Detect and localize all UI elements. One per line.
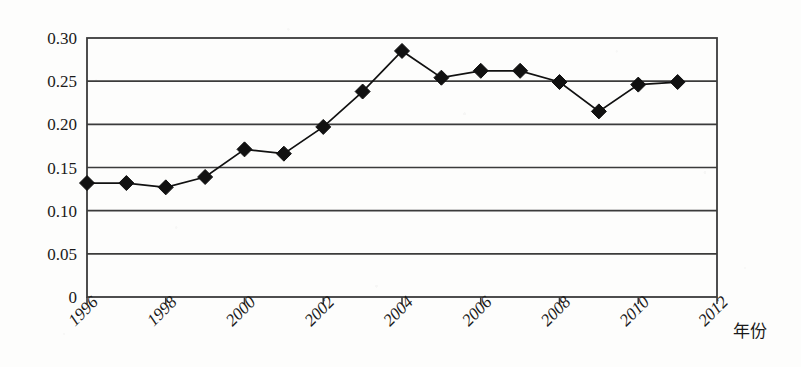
y-axis-tick-label: 0.20 bbox=[47, 115, 77, 134]
data-point-marker bbox=[434, 70, 449, 85]
chart-figure: 0.300.250.200.150.100.050 19961998200020… bbox=[0, 0, 801, 367]
y-axis-tick-label: 0.10 bbox=[47, 202, 77, 221]
x-axis-title: 年份 bbox=[733, 322, 767, 341]
data-point-marker bbox=[552, 75, 567, 90]
data-point-marker bbox=[119, 176, 134, 191]
gridline-group bbox=[87, 81, 717, 254]
data-point-marker bbox=[237, 142, 252, 157]
data-point-marker bbox=[198, 169, 213, 184]
data-point-marker bbox=[631, 77, 646, 92]
data-point-marker bbox=[473, 63, 488, 78]
y-axis-tick-label: 0.30 bbox=[47, 29, 77, 48]
data-point-marker-group bbox=[80, 43, 686, 194]
data-point-marker bbox=[158, 180, 173, 195]
y-axis-tick-label: 0.05 bbox=[47, 245, 77, 264]
data-point-marker bbox=[513, 63, 528, 78]
y-axis-tick-label-group: 0.300.250.200.150.100.050 bbox=[47, 29, 77, 307]
data-point-marker bbox=[670, 75, 685, 90]
line-chart: 0.300.250.200.150.100.050 19961998200020… bbox=[0, 0, 801, 367]
y-axis-tick-label: 0.25 bbox=[47, 72, 77, 91]
y-axis-tick-label: 0.15 bbox=[47, 159, 77, 178]
data-point-marker bbox=[591, 104, 606, 119]
data-point-marker bbox=[80, 176, 95, 191]
data-point-marker bbox=[276, 146, 291, 161]
